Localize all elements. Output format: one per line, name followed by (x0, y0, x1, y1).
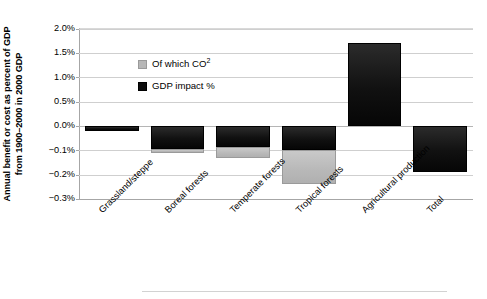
y-axis-tick-label: 0.5% (33, 97, 75, 106)
legend-label-co2: Of which CO2 (152, 59, 210, 69)
y-axis-tick-label: 1.0% (33, 73, 75, 82)
y-axis-tick-label: −0.1% (33, 146, 75, 155)
gridline (79, 199, 473, 200)
legend-label-co2-text: Of which CO (152, 58, 206, 69)
dark-square-marker (138, 82, 147, 91)
bar-segment-gdp-impact (282, 126, 336, 150)
y-axis-tick-label: 2.0% (33, 24, 75, 33)
bar-chart: Annual benefit or cost as percent of GDP… (0, 0, 487, 299)
legend-item-co2: Of which CO2 (138, 53, 298, 75)
y-axis-tick-label: 0.0% (33, 121, 75, 130)
bar-segment-gdp-impact (348, 43, 402, 126)
chart-legend: Of which CO2 GDP impact % (138, 53, 298, 97)
legend-label-co2-superscript: 2 (206, 57, 210, 64)
y-axis-tick-label: −0.3% (33, 194, 75, 203)
y-axis-title: Annual benefit or cost as percent of GDP… (2, 9, 36, 219)
light-square-marker (138, 60, 147, 69)
bar-segment-co2 (151, 149, 205, 153)
bar-segment-gdp-impact (216, 126, 270, 147)
bar-segment-gdp-impact (85, 126, 139, 131)
bar-segment-gdp-impact (151, 126, 205, 149)
gridline (79, 102, 473, 103)
bottom-rule (142, 291, 447, 292)
legend-item-gdp-impact: GDP impact % (138, 75, 298, 97)
gridline (79, 29, 473, 30)
legend-label-gdp-impact: GDP impact % (152, 81, 215, 91)
bar-segment-co2 (216, 147, 270, 158)
y-axis-tick-label: −0.2% (33, 170, 75, 179)
y-axis-tick-label: 1.5% (33, 48, 75, 57)
